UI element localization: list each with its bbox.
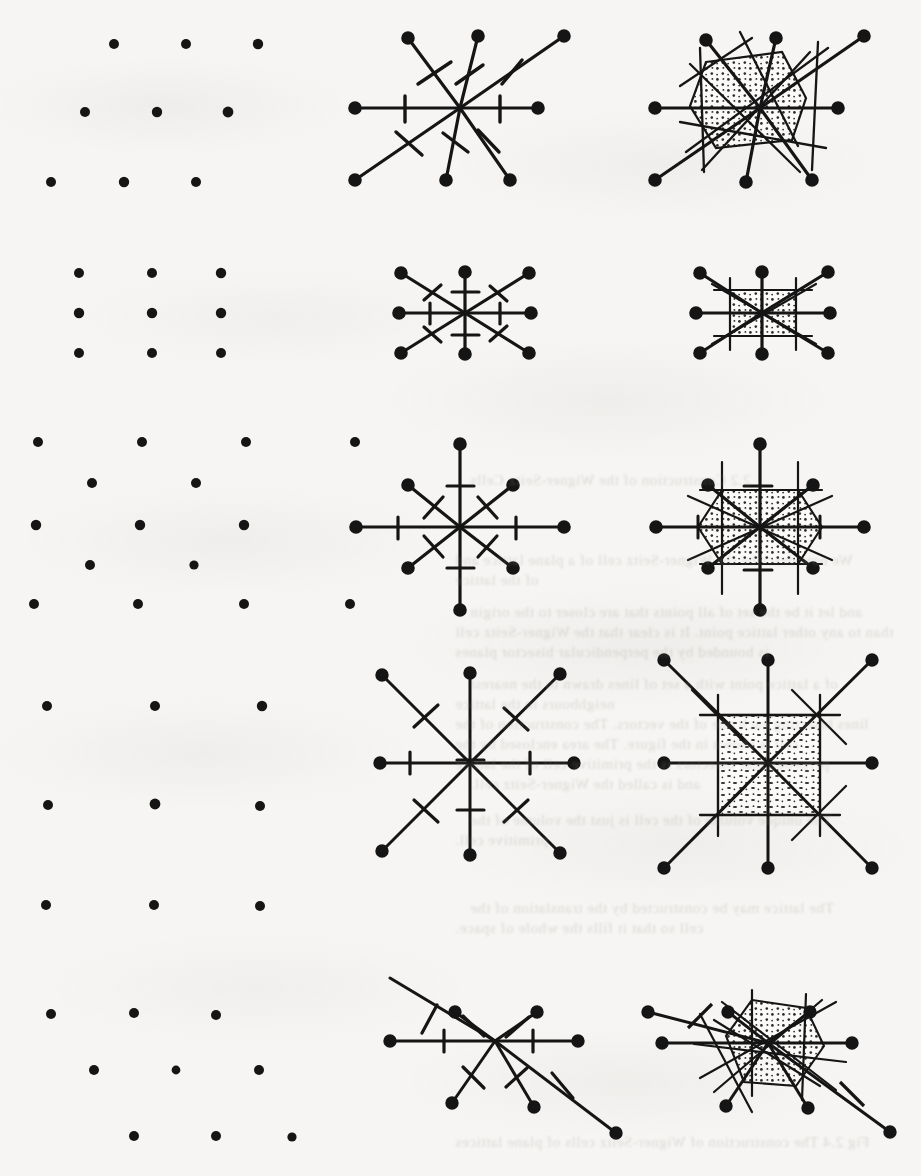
row-hex-neighbour-star <box>385 978 621 1138</box>
row-oblique-lattice-points <box>46 39 263 187</box>
row-oblique-neighbour-star <box>350 31 569 185</box>
bleed-through-line: and is called the Wigner-Seitz cell. <box>470 776 700 793</box>
row-square-lattice-points <box>41 701 267 911</box>
row-rect-wigner-seitz-cell <box>691 267 835 359</box>
bleed-through-line: cell so that it fills the whole of space… <box>455 920 703 937</box>
bleed-through-line: neighbours in the lattice <box>455 696 615 713</box>
paper-grain-overlay <box>0 0 921 1176</box>
bleed-through-line: cell is shown in the figure. The area en… <box>455 736 799 753</box>
bleed-through-line: We now describe the Wigner-Seitz cell of… <box>455 552 853 569</box>
row-hex-wigner-seitz-cell <box>643 990 895 1137</box>
row-rect-lattice-points <box>74 268 226 358</box>
row-hex-lattice-points <box>46 1008 297 1142</box>
bleed-through-line: than to any other lattice point. It is c… <box>455 624 893 641</box>
bleed-through-line: of the lattice <box>455 572 538 589</box>
row-square-neighbour-star <box>375 668 579 860</box>
row-rect-neighbour-star <box>394 267 536 359</box>
scanned-figure-page: 2.2 Construction of the Wigner-Seitz Cel… <box>0 0 921 1176</box>
bleed-through-line: primitive cell. <box>455 832 548 849</box>
bleed-through-line: The lattice may be constructed by the tr… <box>470 900 834 917</box>
bleed-through-line: and let it be the set of all points that… <box>470 604 862 621</box>
row-centred-rect-lattice-points <box>29 437 360 609</box>
bleed-through-line: 2.2 Construction of the Wigner-Seitz Cel… <box>470 472 751 489</box>
bleed-through-line: lines bisecting each one of the vectors.… <box>455 716 868 733</box>
bleed-through-line: The unique volume of the cell is just th… <box>470 812 832 829</box>
bleed-through-line: perpendicular bisectors is the primitive… <box>455 756 829 773</box>
row-square-wigner-seitz-cell <box>659 655 877 873</box>
bleed-through-line: of a lattice point with a set of lines d… <box>470 676 838 693</box>
row-centred-rect-wigner-seitz-cell <box>651 439 869 615</box>
lattice-figure-svg <box>0 0 921 1176</box>
row-oblique-wigner-seitz-cell <box>650 31 869 187</box>
bleed-through-line: is bounded by the perpendicular bisector… <box>455 644 769 661</box>
row-centred-rect-neighbour-star <box>351 439 569 615</box>
bleed-through-line: Fig 2.4 The construction of Wigner-Seitz… <box>455 1134 869 1151</box>
